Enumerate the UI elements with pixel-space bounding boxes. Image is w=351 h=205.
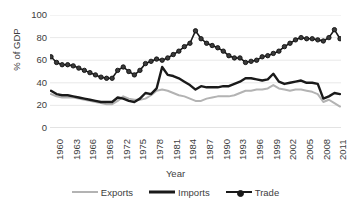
legend-line <box>72 191 98 193</box>
data-point-marker <box>193 29 197 33</box>
series-line-imports <box>51 67 340 102</box>
trade-percent-gdp-chart: % of GDP 020406080100 196019631966196919… <box>0 0 351 205</box>
data-point-marker <box>338 37 341 41</box>
x-tick-label: 2008 <box>322 139 332 160</box>
x-tick-label: 2005 <box>305 139 315 160</box>
data-point-marker <box>60 63 64 67</box>
x-tick-label: 1972 <box>122 139 132 160</box>
data-point-marker <box>88 70 92 74</box>
data-point-marker <box>171 52 175 56</box>
data-point-marker <box>232 56 236 60</box>
y-tick-label: 100 <box>23 10 47 20</box>
data-point-marker <box>149 59 153 63</box>
data-point-marker <box>160 58 164 62</box>
y-tick-label: 20 <box>23 100 47 110</box>
data-point-marker <box>310 37 314 41</box>
legend-swatch-trade <box>226 187 252 197</box>
data-point-marker <box>65 63 69 67</box>
data-point-marker <box>104 76 108 80</box>
data-point-marker <box>50 55 53 59</box>
x-tick-label: 1975 <box>138 139 148 160</box>
data-point-marker <box>271 51 275 55</box>
x-tick-label: 1981 <box>172 139 182 160</box>
x-tick-label: 1996 <box>255 139 265 160</box>
x-tick-label: 1963 <box>72 139 82 160</box>
y-tick-label: 0 <box>23 123 47 133</box>
x-axis-tick-labels: 1960196319661969197219751978198119841987… <box>50 130 341 170</box>
data-point-marker <box>304 37 308 41</box>
legend-swatch-imports <box>149 187 175 197</box>
data-point-marker <box>199 37 203 41</box>
legend-marker-icon <box>237 190 244 197</box>
data-point-marker <box>249 59 253 63</box>
legend-label: Trade <box>255 187 279 198</box>
data-point-marker <box>316 38 320 42</box>
data-point-marker <box>177 49 181 53</box>
y-tick-label: 60 <box>23 55 47 65</box>
data-point-marker <box>121 65 125 69</box>
data-point-marker <box>210 43 214 47</box>
x-axis-title: Year <box>0 168 351 179</box>
x-tick-label: 1999 <box>272 139 282 160</box>
x-tick-label: 1984 <box>188 139 198 160</box>
x-tick-label: 1987 <box>205 139 215 160</box>
data-point-marker <box>243 60 247 64</box>
data-point-marker <box>332 27 336 31</box>
data-point-marker <box>77 66 81 70</box>
data-point-marker <box>299 35 303 39</box>
x-tick-label: 1978 <box>155 139 165 160</box>
x-tick-label: 1969 <box>105 139 115 160</box>
data-point-marker <box>54 60 58 64</box>
y-tick-label: 80 <box>23 33 47 43</box>
data-point-marker <box>127 69 131 73</box>
data-point-marker <box>266 53 270 57</box>
legend-item-exports[interactable]: Exports <box>72 187 133 198</box>
legend-item-trade[interactable]: Trade <box>226 187 279 198</box>
data-point-marker <box>154 57 158 61</box>
data-point-marker <box>138 68 142 72</box>
data-point-marker <box>327 35 331 39</box>
legend-line <box>149 191 175 194</box>
data-point-marker <box>260 55 264 59</box>
legend-label: Exports <box>101 187 133 198</box>
data-point-marker <box>204 41 208 45</box>
x-tick-label: 1960 <box>55 139 65 160</box>
data-point-marker <box>71 64 75 68</box>
data-point-marker <box>188 41 192 45</box>
data-point-marker <box>227 53 231 57</box>
data-point-marker <box>254 58 258 62</box>
data-point-marker <box>99 75 103 79</box>
legend-item-imports[interactable]: Imports <box>149 187 210 198</box>
data-point-marker <box>293 38 297 42</box>
data-point-marker <box>288 41 292 45</box>
data-point-marker <box>238 56 242 60</box>
x-tick-label: 1993 <box>238 139 248 160</box>
data-point-marker <box>277 49 281 53</box>
legend-label: Imports <box>178 187 210 198</box>
series-canvas <box>50 15 341 128</box>
plot-area <box>50 15 341 128</box>
data-point-marker <box>282 44 286 48</box>
chart-legend: ExportsImportsTrade <box>0 184 351 200</box>
x-tick-label: 2002 <box>288 139 298 160</box>
data-point-marker <box>93 73 97 77</box>
data-point-marker <box>321 39 325 43</box>
legend-swatch-exports <box>72 187 98 197</box>
data-point-marker <box>143 61 147 65</box>
data-point-marker <box>82 68 86 72</box>
x-tick-label: 1966 <box>88 139 98 160</box>
y-tick-label: 40 <box>23 78 47 88</box>
data-point-marker <box>182 44 186 48</box>
data-point-marker <box>115 68 119 72</box>
x-tick-label: 2011 <box>338 140 348 160</box>
data-point-marker <box>166 56 170 60</box>
data-point-marker <box>110 76 114 80</box>
series-line-trade <box>51 30 340 79</box>
data-point-marker <box>132 73 136 77</box>
data-point-marker <box>216 46 220 50</box>
data-point-marker <box>221 49 225 53</box>
x-tick-label: 1990 <box>222 139 232 160</box>
